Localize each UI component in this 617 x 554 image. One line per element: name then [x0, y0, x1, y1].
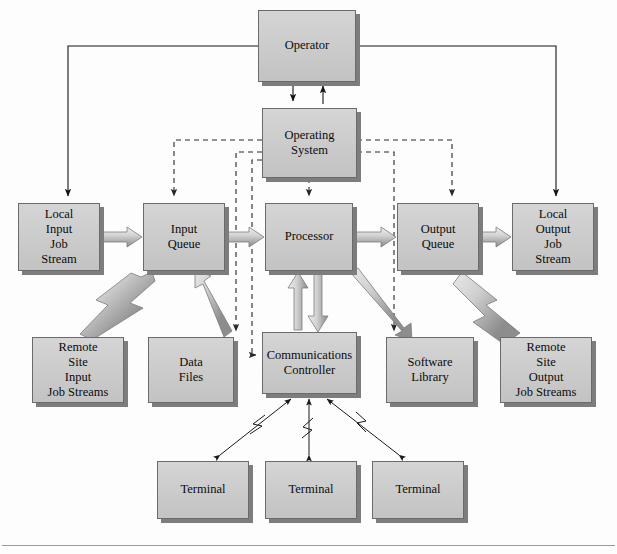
- node-operating-system-label: Operating System: [263, 128, 356, 159]
- node-local-input-job-stream-label: Local Input Job Stream: [38, 207, 79, 268]
- node-local-output-job-stream-label: Local Output Job Stream: [532, 207, 573, 268]
- wire-terminal-1-to-comm-controller: [220, 399, 291, 455]
- node-terminal-1[interactable]: Terminal: [157, 461, 249, 519]
- node-operator-label: Operator: [282, 38, 332, 53]
- wire-os-dashed-to-comm-controller: [252, 160, 262, 355]
- wire-output-queue-to-local-output: [479, 227, 511, 247]
- wire-input-queue-to-processor: [225, 227, 264, 247]
- node-input-queue[interactable]: Input Queue: [143, 203, 225, 271]
- wire-comm-controller-to-processor: [288, 272, 328, 332]
- node-remote-site-output-job-streams-label: Remote Site Output Job Streams: [513, 340, 580, 401]
- node-local-output-job-stream[interactable]: Local Output Job Stream: [512, 203, 594, 271]
- node-processor[interactable]: Processor: [265, 203, 353, 271]
- node-remote-site-input-job-streams[interactable]: Remote Site Input Job Streams: [32, 337, 124, 403]
- wire-operator-to-local-output: [356, 46, 556, 196]
- wire-terminal-3-to-comm-controller: [327, 399, 399, 455]
- node-software-library-label: Software Library: [404, 355, 455, 386]
- page-rule: [2, 545, 615, 546]
- node-operator[interactable]: Operator: [258, 10, 356, 82]
- node-terminal-3[interactable]: Terminal: [372, 461, 464, 519]
- node-output-queue[interactable]: Output Queue: [397, 203, 479, 271]
- wire-os-dashed-to-data-files: [236, 152, 262, 331]
- node-operating-system[interactable]: Operating System: [262, 108, 357, 178]
- wire-processor-to-output-queue: [353, 227, 396, 247]
- wire-processor-to-software-library: [350, 268, 412, 341]
- node-data-files-label: Data Files: [176, 355, 206, 386]
- node-terminal-2[interactable]: Terminal: [265, 461, 357, 519]
- wire-os-dashed-to-input-queue: [174, 140, 262, 196]
- node-communications-controller-label: Communications Controller: [264, 348, 355, 379]
- wire-terminal-2-to-comm-controller: [302, 399, 313, 455]
- node-communications-controller[interactable]: Communications Controller: [262, 332, 357, 394]
- wire-remote-input-lightning: [80, 272, 155, 340]
- node-software-library[interactable]: Software Library: [386, 337, 474, 403]
- wire-operator-to-local-input: [68, 46, 258, 196]
- node-remote-site-input-job-streams-label: Remote Site Input Job Streams: [45, 340, 112, 401]
- wire-os-dashed-to-output-queue: [357, 140, 452, 196]
- node-terminal-1-label: Terminal: [178, 482, 229, 497]
- wire-os-dashed-to-software-library: [357, 152, 394, 331]
- node-terminal-3-label: Terminal: [393, 482, 444, 497]
- diagram-canvas: Operator Operating System Local Input Jo…: [0, 0, 617, 554]
- node-output-queue-label: Output Queue: [418, 222, 459, 253]
- wire-local-input-to-input-queue: [100, 227, 142, 247]
- wire-data-files-to-processor: [195, 270, 232, 337]
- node-processor-label: Processor: [282, 229, 337, 244]
- node-local-input-job-stream[interactable]: Local Input Job Stream: [18, 203, 100, 271]
- node-input-queue-label: Input Queue: [165, 222, 204, 253]
- node-remote-site-output-job-streams[interactable]: Remote Site Output Job Streams: [500, 337, 592, 403]
- node-data-files[interactable]: Data Files: [148, 337, 234, 403]
- node-terminal-2-label: Terminal: [286, 482, 337, 497]
